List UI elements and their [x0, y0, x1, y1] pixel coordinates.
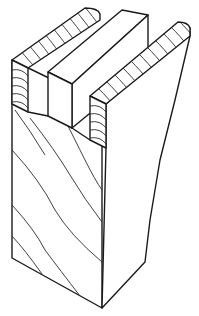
- wood-joint-illustration: [0, 0, 199, 316]
